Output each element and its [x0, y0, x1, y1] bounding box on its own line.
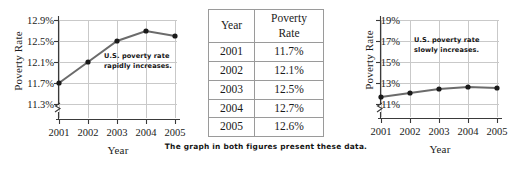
table-cell-year: 2002 — [209, 62, 255, 81]
table-cell-year: 2001 — [209, 43, 255, 62]
left-chart-annotation: U.S. poverty rate rapidly increases. — [104, 52, 172, 71]
table-row: 2004 12.7% — [209, 99, 324, 118]
right-chart-ytick-4: 11% — [358, 100, 400, 111]
left-chart-ytick-0: 12.9% — [8, 16, 54, 27]
left-chart-ytick-2: 12.1% — [8, 58, 54, 69]
table-row: 2005 12.6% — [209, 118, 324, 137]
left-chart-ytick-4: 11.3% — [8, 100, 54, 111]
right-chart-ytick-0: 19% — [358, 16, 400, 27]
right-chart-xtick-4: 2005 — [480, 127, 514, 138]
table-cell-rate: 12.7% — [255, 99, 324, 118]
table-row: 2002 12.1% — [209, 62, 324, 81]
table-row: 2001 11.7% — [209, 43, 324, 62]
table-cell-year: 2003 — [209, 80, 255, 99]
figure-caption: The graph in both figures present these … — [0, 142, 532, 151]
table-cell-year: 2004 — [209, 99, 255, 118]
table-row: 2003 12.5% — [209, 80, 324, 99]
right-chart-ytick-3: 13% — [358, 79, 400, 90]
right-chart-ytick-1: 17% — [358, 37, 400, 48]
left-chart-ytick-1: 12.5% — [8, 37, 54, 48]
table-cell-year: 2005 — [209, 118, 255, 137]
table-cell-rate: 12.6% — [255, 118, 324, 137]
right-chart-annotation: U.S. poverty rate slowly increases. — [414, 36, 479, 55]
table-cell-rate: 11.7% — [255, 43, 324, 62]
table-cell-rate: 12.5% — [255, 80, 324, 99]
left-chart-xtick-4: 2005 — [158, 128, 192, 139]
poverty-rate-table: Year Poverty Rate 2001 11.7% 2002 12.1% … — [208, 9, 324, 137]
table-header-year: Year — [209, 10, 255, 43]
left-chart-ytick-3: 11.7% — [8, 79, 54, 90]
table-header-poverty-rate: Poverty Rate — [255, 10, 324, 43]
right-chart-ytick-2: 15% — [358, 58, 400, 69]
table-header-row: Year Poverty Rate — [209, 10, 324, 43]
table-cell-rate: 12.1% — [255, 62, 324, 81]
